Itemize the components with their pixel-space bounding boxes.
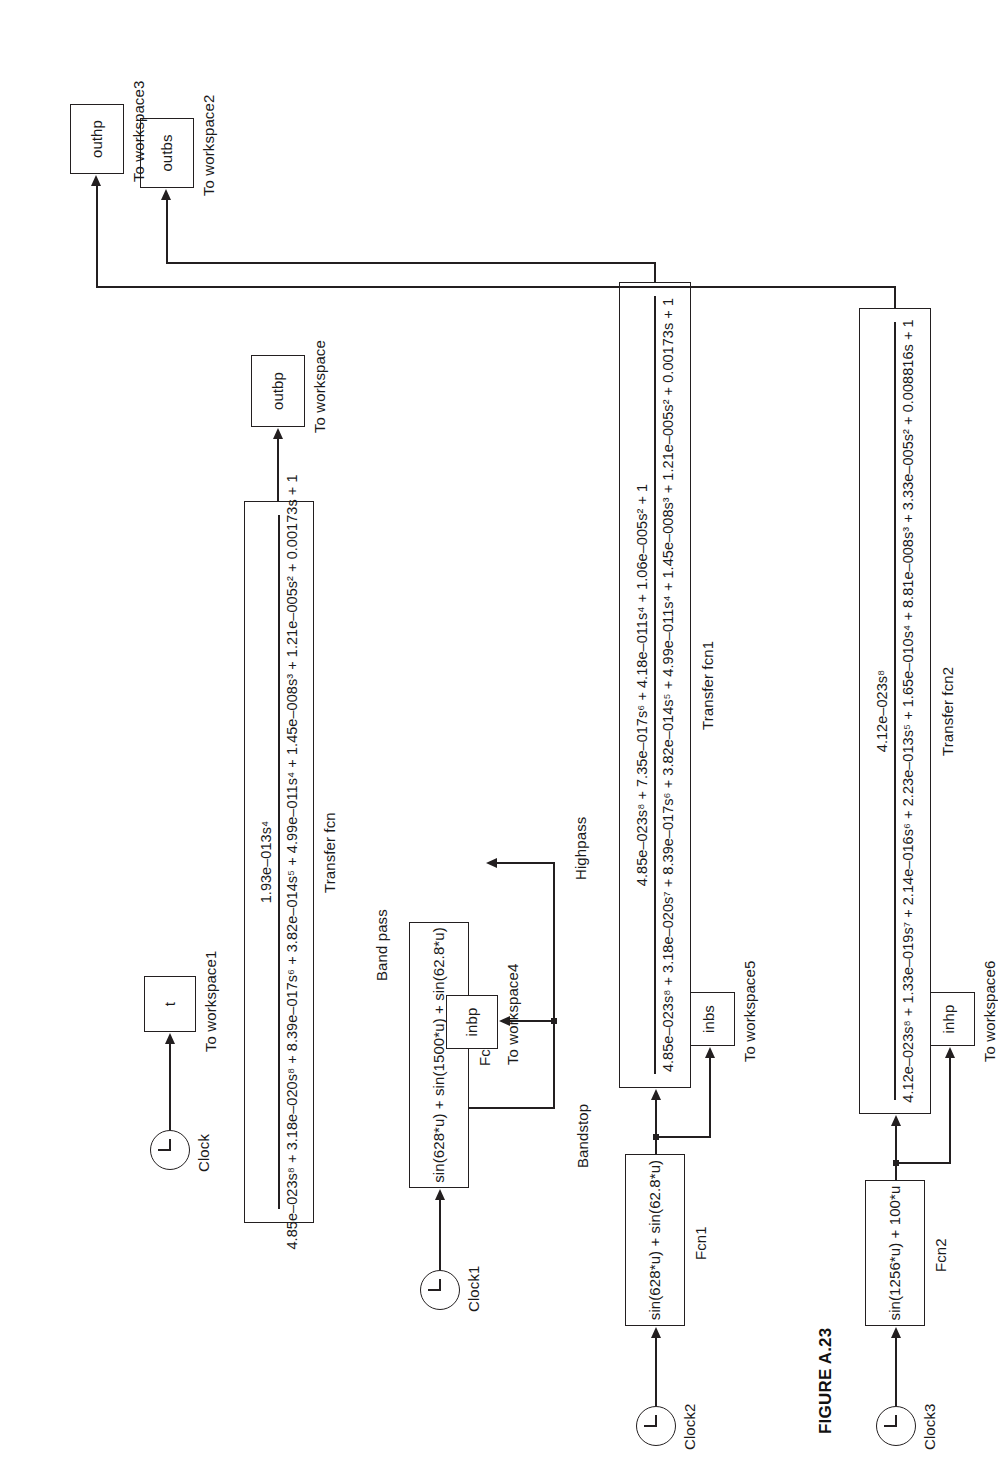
bandstop-fraction-bar bbox=[654, 296, 656, 1074]
transfer-function-bandpass[interactable]: 1.93e–013s⁴ 4.85e–023s⁸ + 3.18e–020s⁸ + … bbox=[244, 501, 314, 1223]
sink-outbp-label: To workspace bbox=[312, 340, 327, 433]
sink-inhp-label: To workspace6 bbox=[982, 961, 997, 1062]
link-tap-highpass-across bbox=[949, 1058, 951, 1164]
link-bandstop-to-outbs bbox=[166, 200, 168, 264]
sink-inbp[interactable]: inbp bbox=[446, 995, 498, 1049]
arrowhead-into-inbs bbox=[705, 1047, 715, 1058]
function-block-fcn2[interactable]: sin(1256*u) + 100*u bbox=[865, 1180, 925, 1326]
link-tap-bandstop-down bbox=[655, 1136, 711, 1138]
bandpass-denominator: 4.85e–023s⁸ + 3.18e–020s⁸ + 8.39e–017s⁶ … bbox=[283, 471, 301, 1254]
clock-hand-horizontal bbox=[169, 1139, 171, 1151]
bandpass-numerator: 1.93e–013s⁴ bbox=[257, 817, 275, 908]
link-highpass-riser bbox=[96, 286, 895, 288]
bandstop-numerator: 4.85e–023s⁸ + 7.35e–017s⁶ + 4.18e–011s⁴ … bbox=[633, 480, 651, 890]
figure-caption: FIGURE A.23 bbox=[816, 1328, 836, 1434]
highpass-fraction-bar bbox=[894, 322, 896, 1100]
highpass-denominator: 4.12e–023s⁸ + 1.33e–019s⁷ + 2.14e–016s⁶ … bbox=[899, 315, 917, 1106]
clock2-hand-horizontal bbox=[655, 1415, 657, 1427]
link-clock2-to-fcn1 bbox=[655, 1338, 657, 1406]
sink-outbs-label: To workspace2 bbox=[201, 95, 216, 196]
sink-outhp-label: To workspace3 bbox=[131, 81, 146, 182]
arrowhead-into-outhp bbox=[91, 175, 101, 186]
transfer-function-bandpass-label: Transfer fcn bbox=[322, 812, 337, 893]
link-tap-highpass-down bbox=[895, 1162, 951, 1164]
link-bandstop-out bbox=[654, 262, 656, 282]
sink-t-label: To workspace1 bbox=[203, 951, 218, 1052]
clock-source-clock1-label: Clock1 bbox=[466, 1266, 481, 1312]
highpass-title: Highpass bbox=[573, 817, 588, 880]
arrowhead-into-inhp bbox=[945, 1047, 955, 1058]
bandstop-denominator: 4.85e–023s⁸ + 3.18e–020s⁷ + 8.39e–017s⁶ … bbox=[659, 294, 677, 1076]
transfer-function-bandstop[interactable]: 4.85e–023s⁸ + 7.35e–017s⁶ + 4.18e–011s⁴ … bbox=[619, 282, 691, 1088]
clock1-hand-horizontal bbox=[439, 1279, 441, 1291]
clock-source-clock2-label: Clock2 bbox=[682, 1404, 697, 1450]
arrowhead-into-bandstop bbox=[651, 1089, 661, 1100]
function-block-fcn2-expression: sin(1256*u) + 100*u bbox=[886, 1186, 903, 1321]
arrowhead-into-bandpass bbox=[486, 858, 497, 868]
transfer-function-bandstop-label: Transfer fcn1 bbox=[700, 641, 715, 730]
sink-inbp-value: inbp bbox=[463, 1008, 480, 1037]
link-clock1-to-fcn bbox=[439, 1200, 441, 1270]
sink-outbs[interactable]: outbs bbox=[140, 118, 194, 188]
function-block-fcn[interactable]: sin(628*u) + sin(1500*u) + sin(62.8*u) bbox=[409, 922, 469, 1188]
link-clock3-to-fcn2 bbox=[895, 1338, 897, 1406]
clock-source-clock2[interactable] bbox=[636, 1406, 676, 1446]
arrowhead-into-outbs bbox=[161, 189, 171, 200]
function-block-fcn-expression: sin(628*u) + sin(1500*u) + sin(62.8*u) bbox=[430, 927, 447, 1183]
clock3-hand-horizontal bbox=[895, 1415, 897, 1427]
arrowhead-clock1-to-fcn bbox=[435, 1189, 445, 1200]
link-fcn-down bbox=[469, 1107, 555, 1109]
sink-inhp-value: inhp bbox=[940, 1005, 957, 1034]
clock-source-clock3[interactable] bbox=[876, 1406, 916, 1446]
link-tap-bandstop-across bbox=[709, 1058, 711, 1138]
sink-t[interactable]: t bbox=[144, 976, 196, 1032]
link-fcn-to-bandpass bbox=[553, 862, 555, 1109]
sink-outhp-value: outhp bbox=[88, 120, 105, 158]
link-bandpass-to-outbp bbox=[277, 439, 279, 501]
sink-inbs-label: To workspace5 bbox=[742, 961, 757, 1062]
bandpass-title: Band pass bbox=[374, 909, 389, 981]
link-bandpass-input-riser bbox=[495, 862, 555, 864]
sink-inbp-label: To workspace4 bbox=[505, 964, 520, 1065]
link-highpass-out bbox=[894, 286, 896, 308]
sink-t-value: t bbox=[161, 1002, 178, 1006]
bandpass-fraction-bar bbox=[278, 515, 280, 1209]
arrowhead-clock2-to-fcn1 bbox=[651, 1327, 661, 1338]
arrowhead-into-outbp bbox=[273, 428, 283, 439]
sink-outbp-value: outbp bbox=[269, 372, 286, 410]
sink-inbs-value: inbs bbox=[700, 1005, 717, 1033]
function-block-fcn2-label: Fcn2 bbox=[933, 1238, 948, 1272]
function-block-fcn1-expression: sin(628*u) + sin(62.8*u) bbox=[646, 1160, 663, 1320]
clock-source-clock-label: Clock bbox=[196, 1134, 211, 1172]
highpass-numerator: 4.12e–023s⁸ bbox=[873, 666, 891, 756]
arrowhead-into-highpass bbox=[891, 1115, 901, 1126]
arrowhead-clock3-to-fcn2 bbox=[891, 1327, 901, 1338]
clock-source-clock[interactable] bbox=[150, 1130, 190, 1170]
sink-outhp[interactable]: outhp bbox=[70, 104, 124, 174]
link-highpass-to-outhp bbox=[96, 186, 98, 288]
link-fcn1-to-bandstop bbox=[655, 1100, 657, 1154]
link-bandstop-riser bbox=[166, 262, 655, 264]
clock-source-clock1[interactable] bbox=[420, 1270, 460, 1310]
link-fcn2-to-highpass bbox=[895, 1126, 897, 1180]
function-block-fcn1-label: Fcn1 bbox=[693, 1226, 708, 1260]
link-clock-to-t bbox=[169, 1044, 171, 1130]
arrowhead-clock-to-t bbox=[165, 1033, 175, 1044]
clock-source-clock3-label: Clock3 bbox=[922, 1404, 937, 1450]
sink-outbp[interactable]: outbp bbox=[251, 355, 305, 427]
bandstop-title: Bandstop bbox=[575, 1104, 590, 1168]
sink-outbs-value: outbs bbox=[158, 134, 175, 171]
transfer-function-highpass[interactable]: 4.12e–023s⁸ 4.12e–023s⁸ + 1.33e–019s⁷ + … bbox=[859, 308, 931, 1114]
function-block-fcn1[interactable]: sin(628*u) + sin(62.8*u) bbox=[625, 1154, 685, 1326]
transfer-function-highpass-label: Transfer fcn2 bbox=[940, 667, 955, 756]
